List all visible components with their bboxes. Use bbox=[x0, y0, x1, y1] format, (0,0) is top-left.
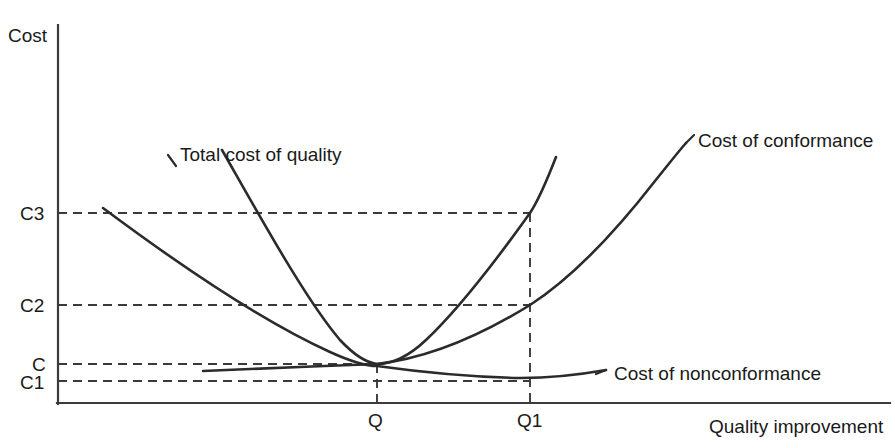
series-label-cost-of-conformance: Cost of conformance bbox=[698, 131, 873, 150]
leader-line-total-cost-of-quality bbox=[168, 155, 176, 166]
curve-total-cost-of-quality bbox=[222, 150, 556, 364]
y-tick-label-c2: C2 bbox=[20, 296, 44, 315]
y-tick-label-c3: C3 bbox=[20, 204, 44, 223]
x-tick-label-q: Q bbox=[368, 411, 383, 430]
x-tick-label-q1: Q1 bbox=[517, 411, 542, 430]
series-label-cost-of-nonconformance: Cost of nonconformance bbox=[614, 364, 821, 383]
series-label-total-cost-of-quality: Total cost of quality bbox=[180, 145, 342, 164]
y-axis-title: Cost bbox=[8, 26, 47, 45]
curve-cost-of-conformance bbox=[203, 143, 686, 371]
leader-line-cost-of-conformance bbox=[686, 135, 694, 143]
y-tick-label-c1: C1 bbox=[20, 373, 44, 392]
x-axis-title: Quality improvement bbox=[709, 417, 883, 436]
chart-canvas: Cost Quality improvement C3 C2 C C1 Q Q1… bbox=[0, 0, 895, 448]
